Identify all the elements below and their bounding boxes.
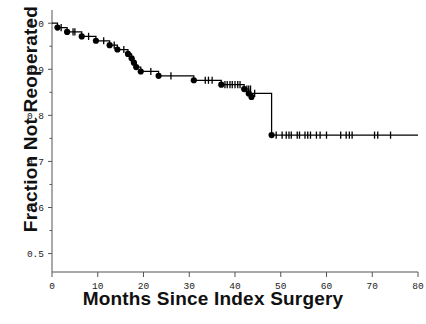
event-marker <box>93 38 99 44</box>
event-marker <box>241 86 247 92</box>
event-marker-group <box>54 24 274 138</box>
event-marker <box>218 82 224 88</box>
event-marker <box>191 77 197 83</box>
survival-step-curve <box>52 23 418 135</box>
event-marker <box>269 132 275 138</box>
event-marker <box>64 29 70 35</box>
event-marker <box>54 24 60 30</box>
survival-step-line <box>52 23 418 135</box>
x-axis-label: Months Since Index Surgery <box>0 288 426 310</box>
y-axis-label: Fraction Not Reoperated <box>20 0 42 244</box>
event-marker <box>138 68 144 74</box>
y-tick-label: 0.5 <box>27 249 44 260</box>
censored-tick-group <box>61 24 390 139</box>
event-marker <box>133 64 139 70</box>
event-marker <box>114 46 120 52</box>
plot-canvas: 0.50.60.70.80.91.0 01020304050607080 <box>0 0 426 324</box>
event-marker <box>79 33 85 39</box>
event-marker <box>155 73 161 79</box>
kaplan-meier-figure: Fraction Not Reoperated Months Since Ind… <box>0 0 426 324</box>
event-marker <box>248 94 254 100</box>
event-marker <box>107 42 113 48</box>
cropped-caption <box>14 317 274 324</box>
